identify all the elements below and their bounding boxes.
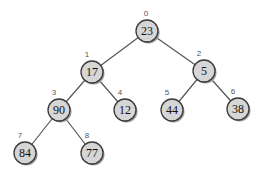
tree-node-1: 171 bbox=[81, 50, 105, 85]
node-index-label: 6 bbox=[231, 87, 236, 96]
node-value: 44 bbox=[166, 103, 178, 117]
node-value: 90 bbox=[53, 103, 65, 117]
node-index-label: 1 bbox=[85, 50, 90, 59]
node-index-label: 7 bbox=[18, 131, 23, 140]
node-index-label: 2 bbox=[197, 49, 202, 58]
node-value: 5 bbox=[201, 64, 207, 78]
tree-node-8: 778 bbox=[81, 131, 105, 166]
node-value: 23 bbox=[141, 24, 153, 38]
tree-nodes: 230 171 52 903 124 445 386 847 778 bbox=[14, 9, 251, 166]
node-value: 17 bbox=[86, 65, 98, 79]
node-index-label: 3 bbox=[52, 88, 57, 97]
node-value: 77 bbox=[86, 146, 98, 160]
tree-node-7: 847 bbox=[14, 131, 38, 166]
node-value: 12 bbox=[119, 103, 131, 117]
node-index-label: 5 bbox=[165, 88, 170, 97]
node-index-label: 8 bbox=[85, 131, 90, 140]
tree-node-2: 52 bbox=[193, 49, 217, 84]
node-value: 38 bbox=[232, 102, 244, 116]
heap-tree-diagram: 230 171 52 903 124 445 386 847 778 bbox=[0, 0, 261, 172]
tree-node-6: 386 bbox=[227, 87, 251, 122]
tree-node-3: 903 bbox=[48, 88, 72, 123]
tree-node-5: 445 bbox=[161, 88, 185, 123]
tree-node-0: 230 bbox=[136, 9, 160, 44]
node-index-label: 4 bbox=[118, 88, 123, 97]
tree-edges bbox=[25, 31, 238, 153]
tree-node-4: 124 bbox=[114, 88, 138, 123]
node-value: 84 bbox=[19, 146, 31, 160]
node-index-label: 0 bbox=[144, 9, 149, 18]
